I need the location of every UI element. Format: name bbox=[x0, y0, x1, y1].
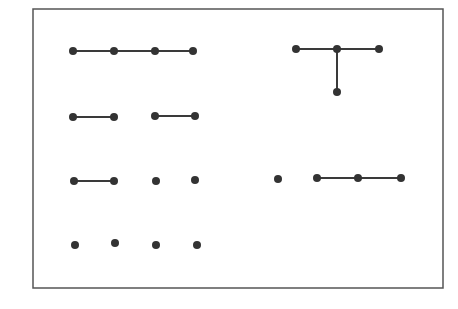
nodes-layer bbox=[69, 45, 405, 249]
node bbox=[69, 113, 77, 121]
node bbox=[70, 177, 78, 185]
node bbox=[151, 47, 159, 55]
node bbox=[313, 174, 321, 182]
node bbox=[110, 113, 118, 121]
node bbox=[110, 177, 118, 185]
node bbox=[189, 47, 197, 55]
node bbox=[333, 45, 341, 53]
node bbox=[292, 45, 300, 53]
group-t-shape bbox=[296, 49, 379, 92]
node bbox=[71, 241, 79, 249]
node bbox=[110, 47, 118, 55]
node bbox=[152, 241, 160, 249]
graph-diagram bbox=[0, 0, 458, 309]
node bbox=[193, 241, 201, 249]
node bbox=[274, 175, 282, 183]
node bbox=[354, 174, 362, 182]
node bbox=[191, 176, 199, 184]
node bbox=[191, 112, 199, 120]
node bbox=[151, 112, 159, 120]
node bbox=[111, 239, 119, 247]
node bbox=[333, 88, 341, 96]
node bbox=[375, 45, 383, 53]
node bbox=[152, 177, 160, 185]
edges-layer bbox=[73, 49, 401, 181]
node bbox=[397, 174, 405, 182]
node bbox=[69, 47, 77, 55]
